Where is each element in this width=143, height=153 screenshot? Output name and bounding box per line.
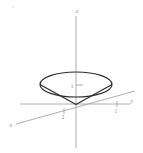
x-tick-label-2: 2 bbox=[62, 114, 65, 120]
x-axis-label: x bbox=[9, 122, 13, 128]
z-tick-label-1: 1 bbox=[71, 83, 74, 89]
z-axis-label: z bbox=[75, 8, 78, 14]
cone-plot-svg: x y z 1 2 1 x bbox=[0, 0, 143, 153]
corner-mark-text: x bbox=[11, 4, 14, 9]
figure-container: x y z 1 2 1 x bbox=[0, 0, 143, 153]
y-axis-label: y bbox=[130, 98, 134, 104]
y-tick-label-1: 1 bbox=[115, 108, 118, 114]
cone-right-generator bbox=[76, 85, 112, 105]
